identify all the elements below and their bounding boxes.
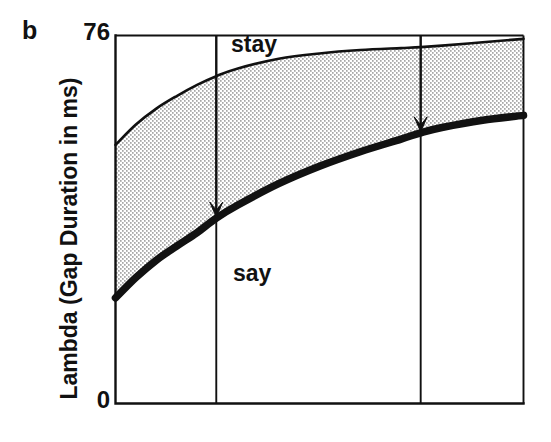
plot-area — [0, 0, 551, 442]
figure-panel-b: b Lambda (Gap Duration in ms) 76 0 stay … — [0, 0, 551, 442]
